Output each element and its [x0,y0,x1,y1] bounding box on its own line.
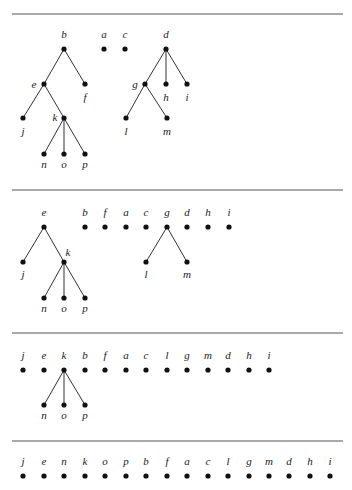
vertex-i [184,81,189,86]
vertex-o [102,473,107,478]
vertex-label: l [226,455,229,467]
vertex-label: b [82,349,88,361]
vertex-j [20,115,25,120]
vertex-label: m [183,268,191,280]
vertex-label: p [81,409,88,421]
vertex-label: g [184,349,190,361]
vertex-g [246,473,251,478]
vertex-label: a [123,349,129,361]
vertex-label: a [123,206,129,218]
vertex-label: h [205,206,211,218]
panel-1: bacdefghijklmnop [19,28,189,170]
vertex-c [143,367,148,372]
vertex-label: e [42,455,47,467]
vertex-e [41,473,46,478]
edge-k-n [44,262,64,298]
vertex-label: h [246,349,252,361]
vertex-c [143,224,148,229]
vertex-n [41,151,46,156]
edge-b-e [44,49,64,84]
vertex-label: m [163,125,171,137]
vertex-label: f [103,349,108,361]
vertex-i [226,224,231,229]
vertex-label: e [32,78,37,90]
panel-3: jekbfaclgmdhinop [19,349,271,421]
vertex-label: i [185,91,188,103]
vertex-label: j [19,268,24,280]
vertex-label: p [81,302,88,314]
edge-k-n [44,370,64,405]
vertex-label: k [53,111,59,123]
vertex-a [184,473,189,478]
vertex-b [61,46,66,51]
edge-b-f [64,49,85,84]
vertex-label: a [101,28,107,40]
vertex-h [246,367,251,372]
vertex-label: k [83,455,89,467]
vertex-label: n [41,302,47,314]
vertex-label: f [83,91,88,103]
vertex-label: o [102,455,108,467]
vertex-o [61,402,66,407]
vertex-label: f [165,455,170,467]
vertex-label: m [204,349,212,361]
vertex-label: i [328,455,331,467]
vertex-label: h [163,91,169,103]
vertex-g [184,367,189,372]
edge-e-j [23,227,44,262]
vertex-o [61,151,66,156]
vertex-k [61,367,66,372]
vertex-e [41,367,46,372]
vertex-label: g [246,455,252,467]
vertex-m [205,367,210,372]
vertex-label: c [144,206,149,218]
vertex-d [286,473,291,478]
vertex-label: g [132,78,138,90]
vertex-a [101,46,106,51]
edge-g-l [146,227,167,262]
vertex-label: l [165,349,168,361]
vertex-g [164,224,169,229]
separator-rules [12,14,343,441]
vertex-a [123,224,128,229]
vertex-p [82,295,87,300]
vertex-f [102,367,107,372]
vertex-b [82,224,87,229]
vertex-p [123,473,128,478]
diagram-canvas: bacdefghijklmnopebfacgdhijklmnopjekbfacl… [0,0,352,490]
vertex-j [20,473,25,478]
vertex-label: d [286,455,292,467]
vertex-k [61,115,66,120]
vertex-e [41,224,46,229]
vertex-label: i [227,206,230,218]
vertex-label: d [225,349,231,361]
vertex-g [142,81,147,86]
vertex-b [82,367,87,372]
edge-g-m [167,227,187,262]
vertex-c [122,46,127,51]
vertex-c [205,473,210,478]
vertex-h [205,224,210,229]
edge-k-p [64,118,85,154]
vertex-label: n [41,409,47,421]
vertex-label: l [124,125,127,137]
vertex-label: f [103,206,108,218]
edge-k-n [44,118,64,154]
vertex-f [102,224,107,229]
vertex-label: p [122,455,129,467]
vertex-label: c [123,28,128,40]
vertex-label: c [206,455,211,467]
vertex-label: d [184,206,190,218]
vertex-label: e [42,206,47,218]
vertex-d [184,224,189,229]
vertex-label: i [267,349,270,361]
vertex-label: b [143,455,149,467]
vertex-label: j [19,125,24,137]
vertex-i [327,473,332,478]
edge-k-p [64,262,85,298]
vertex-label: h [307,455,313,467]
vertex-n [41,295,46,300]
vertex-e [41,81,46,86]
vertex-label: m [265,455,273,467]
vertex-n [41,402,46,407]
